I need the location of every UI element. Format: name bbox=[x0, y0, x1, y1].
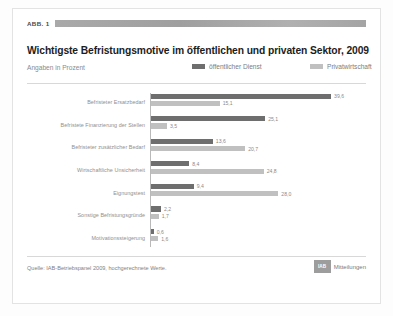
subheader-row: Angaben in Prozent öffentlicher Dienst P… bbox=[27, 63, 366, 75]
bar-fill-private-sector bbox=[151, 169, 264, 174]
bar-public-sector: 39,6 bbox=[151, 94, 344, 99]
bar-value-private-sector: 1,7 bbox=[162, 213, 169, 219]
bar-fill-public-sector bbox=[151, 94, 331, 99]
legend-item-private-sector: Privatwirtschaft bbox=[310, 63, 372, 70]
bar-value-private-sector: 3,5 bbox=[170, 123, 177, 129]
divider-top bbox=[27, 83, 366, 84]
bar-private-sector: 15,1 bbox=[151, 101, 233, 106]
brand-mark-iab: IAB bbox=[314, 260, 331, 273]
bar-value-public-sector: 8,4 bbox=[192, 161, 199, 167]
bar-value-private-sector: 15,1 bbox=[223, 100, 233, 106]
category-label: Sonstige Befristungsgründe bbox=[77, 212, 145, 218]
bar-pair: 2,2 1,7 bbox=[151, 204, 368, 227]
bar-pair: 13,6 20,7 bbox=[151, 136, 368, 159]
brand-text-mitteilungen: Mitteilungen bbox=[334, 264, 366, 270]
bar-private-sector: 1,7 bbox=[151, 214, 169, 219]
legend-swatch-private-sector bbox=[310, 64, 323, 69]
bar-private-sector: 1,6 bbox=[151, 236, 168, 241]
bar-value-private-sector: 1,6 bbox=[161, 236, 168, 242]
bar-value-public-sector: 9,4 bbox=[197, 183, 204, 189]
bar-fill-public-sector bbox=[151, 229, 154, 234]
bar-group: Befristeter Ersatzbedarf 39,6 15,1 bbox=[27, 91, 368, 114]
bar-public-sector: 9,4 bbox=[151, 184, 204, 189]
bar-fill-public-sector bbox=[151, 184, 194, 189]
bar-private-sector: 28,0 bbox=[151, 191, 291, 196]
bar-pair: 39,6 15,1 bbox=[151, 91, 368, 114]
bar-value-private-sector: 28,0 bbox=[281, 191, 291, 197]
category-label: Motivationssteigerung bbox=[92, 235, 146, 241]
bar-fill-private-sector bbox=[151, 123, 167, 128]
chart-title: Wichtigste Befristungsmotive im öffentli… bbox=[27, 45, 369, 56]
category-label: Wirtschaftliche Unsicherheit bbox=[77, 167, 145, 173]
redacted-heading-bar bbox=[55, 20, 366, 27]
bar-value-public-sector: 0,6 bbox=[157, 229, 164, 235]
bar-fill-public-sector bbox=[151, 161, 189, 166]
bar-value-public-sector: 2,2 bbox=[164, 206, 171, 212]
brand-logo: IAB Mitteilungen bbox=[314, 260, 366, 273]
category-label: Befristete Finanzierung der Stellen bbox=[61, 122, 145, 128]
bar-fill-private-sector bbox=[151, 101, 220, 106]
bar-value-public-sector: 39,6 bbox=[334, 93, 344, 99]
figure-card: ABB. 1 Wichtigste Befristungsmotive im ö… bbox=[12, 8, 381, 304]
bar-fill-public-sector bbox=[151, 116, 265, 121]
bar-pair: 8,4 24,8 bbox=[151, 159, 368, 182]
bar-value-public-sector: 25,1 bbox=[268, 116, 278, 122]
bar-public-sector: 13,6 bbox=[151, 139, 226, 144]
chart-plot-area: Befristeter Ersatzbedarf 39,6 15,1 Befri… bbox=[27, 91, 368, 249]
bar-pair: 9,4 28,0 bbox=[151, 181, 368, 204]
bar-fill-public-sector bbox=[151, 206, 161, 211]
bar-fill-public-sector bbox=[151, 139, 213, 144]
bar-private-sector: 3,5 bbox=[151, 123, 177, 128]
bar-private-sector: 20,7 bbox=[151, 146, 258, 151]
units-label: Angaben in Prozent bbox=[27, 64, 85, 71]
category-label: Befristeter Ersatzbedarf bbox=[87, 99, 145, 105]
category-label: Eignungstest bbox=[113, 190, 145, 196]
bar-fill-private-sector bbox=[151, 146, 245, 151]
legend-item-public-sector: öffentlicher Dienst bbox=[192, 63, 262, 70]
bar-public-sector: 0,6 bbox=[151, 229, 164, 234]
bar-value-private-sector: 20,7 bbox=[248, 146, 258, 152]
figure-number-label: ABB. 1 bbox=[27, 20, 50, 27]
source-note: Quelle: IAB-Betriebspanel 2009, hochgere… bbox=[27, 265, 167, 271]
bar-value-public-sector: 13,6 bbox=[216, 138, 226, 144]
bar-pair: 0,6 1,6 bbox=[151, 226, 368, 249]
bar-fill-private-sector bbox=[151, 236, 158, 241]
bar-fill-private-sector bbox=[151, 214, 159, 219]
bar-pair: 25,1 3,5 bbox=[151, 114, 368, 137]
bar-group: Motivationssteigerung 0,6 1,6 bbox=[27, 226, 368, 249]
bar-group: Sonstige Befristungsgründe 2,2 1,7 bbox=[27, 204, 368, 227]
bar-group: Eignungstest 9,4 28,0 bbox=[27, 181, 368, 204]
figure-number-strip: ABB. 1 bbox=[27, 18, 366, 29]
legend-swatch-public-sector bbox=[192, 64, 205, 69]
legend-label-private-sector: Privatwirtschaft bbox=[327, 63, 372, 70]
category-label: Befristeter zusätzlicher Bedarf bbox=[72, 144, 145, 150]
bar-value-private-sector: 24,8 bbox=[267, 168, 277, 174]
bar-private-sector: 24,8 bbox=[151, 169, 277, 174]
figure-page: ABB. 1 Wichtigste Befristungsmotive im ö… bbox=[0, 0, 393, 316]
bar-public-sector: 2,2 bbox=[151, 206, 171, 211]
bar-public-sector: 8,4 bbox=[151, 161, 199, 166]
legend-label-public-sector: öffentlicher Dienst bbox=[209, 63, 262, 70]
bar-fill-private-sector bbox=[151, 191, 278, 196]
divider-bottom bbox=[27, 256, 366, 257]
bar-group: Befristete Finanzierung der Stellen 25,1… bbox=[27, 114, 368, 137]
bar-group: Befristeter zusätzlicher Bedarf 13,6 20,… bbox=[27, 136, 368, 159]
bar-public-sector: 25,1 bbox=[151, 116, 278, 121]
bar-group: Wirtschaftliche Unsicherheit 8,4 24,8 bbox=[27, 159, 368, 182]
